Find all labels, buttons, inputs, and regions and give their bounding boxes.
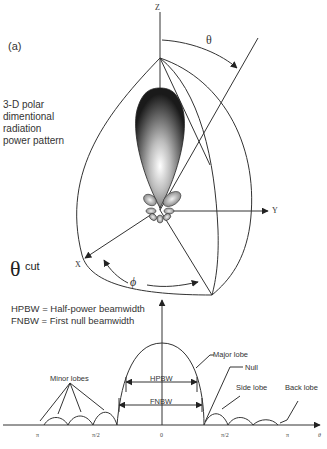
null-label: Null <box>245 362 258 374</box>
description-line: power pattern <box>3 135 64 147</box>
tick-pi-left: π <box>36 429 39 441</box>
back-lobe-label: Back lobe <box>285 382 318 394</box>
fnbw-label: FNBW <box>150 396 172 408</box>
legend-fnbw: FNBW = First null beamwidth <box>11 315 134 327</box>
minor-lobes-label: Minor lobes <box>50 373 89 385</box>
theta-label: θ <box>206 34 212 46</box>
major-lobe-label: Major lobe <box>213 349 248 361</box>
theta-cut-label: θ cut <box>10 258 40 280</box>
tick-pi-right: π <box>286 429 289 441</box>
phi-arc-left <box>104 260 128 283</box>
theta-cut-text: cut <box>25 260 40 272</box>
tick-zero: 0 <box>160 429 163 441</box>
main-lobe-3d <box>136 88 185 208</box>
theta-axis-label: θ <box>318 429 321 441</box>
hpbw-label: HPBW <box>150 373 173 385</box>
side-lobe-label: Side lobe <box>236 382 267 394</box>
z-axis-label: Z <box>155 2 160 14</box>
phi-arc-right <box>147 282 198 286</box>
tick-half-pi-right: π/2 <box>221 429 229 441</box>
phi-label: ϕ <box>130 276 136 288</box>
panel-label: (a) <box>8 40 21 52</box>
theta-cut-symbol: θ <box>10 256 21 281</box>
pattern-description: 3-D polar dimentional radiation power pa… <box>3 99 64 147</box>
tick-half-pi-left: π/2 <box>92 429 100 441</box>
pattern-envelope-left <box>77 58 212 295</box>
x-axis-label: X <box>75 259 81 271</box>
x-axis <box>85 212 155 258</box>
description-line: radiation <box>3 123 64 135</box>
legend-hpbw: HPBW = Half-power beamwidth <box>11 303 145 315</box>
description-line: 3-D polar <box>3 99 64 111</box>
y-axis-label: Y <box>272 205 278 217</box>
description-line: dimentional <box>3 111 64 123</box>
